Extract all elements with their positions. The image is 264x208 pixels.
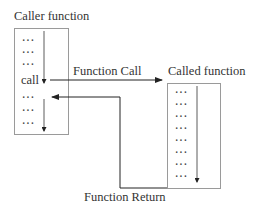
function-call-label: Function Call (73, 64, 141, 78)
function-return-label: Function Return (84, 190, 166, 204)
caller-row-call: call (21, 74, 39, 86)
called-row-5: ··· (175, 135, 188, 147)
caller-row-5: ··· (22, 92, 35, 104)
caller-row-1: ··· (22, 35, 35, 47)
caller-row-7: ··· (22, 118, 35, 130)
called-row-8: ··· (175, 171, 188, 183)
called-function-title: Called function (168, 64, 245, 78)
caller-row-2: ··· (22, 47, 35, 59)
caller-function-title: Caller function (14, 9, 89, 23)
called-row-6: ··· (175, 147, 188, 159)
called-row-3: ··· (175, 111, 188, 123)
diagram-canvas (0, 0, 264, 208)
called-row-2: ··· (175, 99, 188, 111)
called-row-7: ··· (175, 159, 188, 171)
caller-row-6: ··· (22, 105, 35, 117)
called-row-4: ··· (175, 123, 188, 135)
caller-row-3: ··· (22, 59, 35, 71)
called-row-1: ··· (175, 87, 188, 99)
function-return-arrow (52, 97, 167, 188)
